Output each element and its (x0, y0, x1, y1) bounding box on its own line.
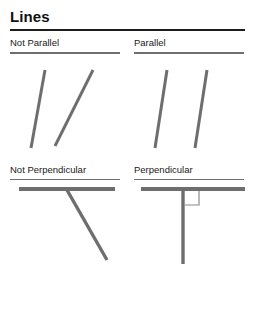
section-parallel: Parallel (132, 31, 246, 158)
page-title: Lines (10, 9, 246, 25)
section-label-not-perpendicular: Not Perpendicular (8, 158, 122, 179)
section-label-not-parallel: Not Parallel (8, 31, 122, 52)
not-parallel-line-left (31, 70, 45, 148)
right-angle-marker (185, 191, 199, 205)
section-label-perpendicular: Perpendicular (132, 158, 246, 179)
lines-grid: Not Parallel Parallel Not Perpendicular (8, 31, 246, 268)
parallel-line-right (195, 70, 207, 148)
not-parallel-line-right (55, 70, 93, 146)
not-parallel-figure (8, 54, 122, 158)
section-perpendicular: Perpendicular (132, 158, 246, 269)
perpendicular-figure (132, 180, 246, 268)
not-perpendicular-figure (8, 180, 122, 268)
section-not-perpendicular: Not Perpendicular (8, 158, 122, 269)
lines-worksheet-page: Lines Not Parallel Parallel Not Perpendi… (0, 9, 254, 319)
section-label-parallel: Parallel (132, 31, 246, 52)
parallel-line-left (155, 70, 167, 148)
section-not-parallel: Not Parallel (8, 31, 122, 158)
not-perpendicular-line-diagonal (67, 190, 107, 260)
parallel-figure (132, 54, 246, 158)
